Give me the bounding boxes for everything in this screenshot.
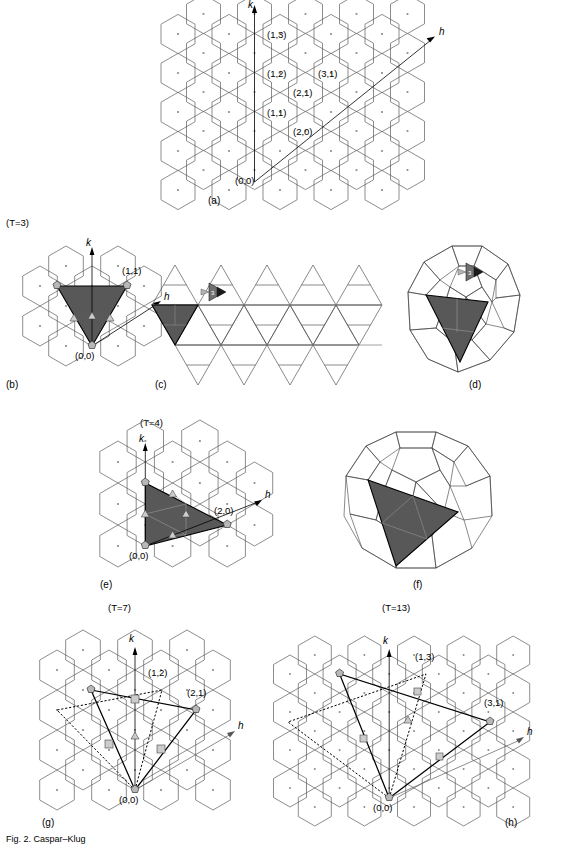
shaded-face-f [368, 480, 458, 566]
k-axis-h [387, 649, 392, 798]
panel-e: k h (0,0) (2,0) [88, 432, 288, 572]
k-axis-label-a: k [248, 0, 253, 10]
origin-label-g: (0,0) [119, 795, 139, 805]
panel-a-lattice [150, 4, 450, 199]
origin-label-h: (0,0) [373, 803, 393, 813]
panel-h: k h (0,0) (1,3) (3,1) [282, 632, 567, 817]
hex-grid-h [274, 636, 530, 826]
k-axis-a [252, 5, 257, 182]
panel-d: 3 [404, 240, 534, 385]
panel-b-lattice [18, 238, 173, 368]
k-axis-g [133, 647, 138, 790]
laevo-label-g: (1,2) [148, 668, 168, 678]
h-axis-label-e: h [265, 490, 271, 500]
panel-letter-a: (a) [208, 196, 220, 206]
k-axis-label-g: k [129, 634, 134, 644]
h-axis-label-h: h [527, 727, 533, 737]
panel-letter-g: (g) [42, 818, 54, 828]
t-label-h-text: (T=13) [382, 602, 410, 613]
h-axis-label-a: h [439, 27, 445, 37]
laevo-label-h: (1,3) [415, 652, 435, 662]
t-label-h: (T=13) [382, 603, 410, 613]
t-label-b-text: (T=3) [6, 217, 29, 228]
lattice-label-00-a: (0,0) [235, 176, 255, 186]
c3-symmetry-glyph-c: 3 [201, 283, 226, 301]
k-axis-label-h: k [383, 636, 388, 646]
lattice-label-20-a: (2,0) [293, 127, 313, 137]
panel-d-capsid: 3 [404, 240, 534, 385]
hex-grid-a [161, 0, 425, 210]
panel-g: k h (0,0) (1,2) (2,1) [35, 638, 265, 813]
origin-label-e: (0,0) [129, 551, 149, 561]
t-label-b: (T=3) [6, 218, 29, 228]
lattice-label-31-a: (3,1) [318, 69, 338, 79]
panel-a: k h (0,0) (1,1) (1,2) (1,3) (2,0) (2,1) … [150, 4, 450, 199]
panel-letter-d: (d) [469, 380, 481, 390]
panel-f [340, 428, 505, 578]
dextro-label-g: (2,1) [187, 688, 207, 698]
panel-letter-c: (c) [155, 380, 167, 390]
h-axis-g [135, 731, 235, 790]
panel-letter-f: (f) [413, 580, 422, 590]
panel-letter-e: (e) [100, 580, 112, 590]
t-label-g: (T=7) [108, 603, 131, 613]
h-axis-label-g: h [238, 721, 244, 731]
t-label-g-text: (T=7) [108, 602, 131, 613]
t-label-e: (T=4) [140, 418, 163, 428]
t-label-e-text: (T=4) [140, 417, 163, 428]
panel-g-lattice [35, 638, 265, 813]
panel-c: 3 [152, 240, 387, 390]
panel-e-lattice [88, 432, 288, 572]
lattice-label-13-a: (1,3) [267, 30, 287, 40]
origin-label-b: (0,0) [75, 351, 95, 361]
lattice-label-21-a: (2,1) [293, 88, 313, 98]
lattice-label-11-a: (1,1) [267, 108, 287, 118]
dextro-label-h: (3,1) [484, 698, 504, 708]
k-axis-label-e: k [139, 434, 144, 444]
panel-letter-b: (b) [6, 380, 18, 390]
laevo-triangle-h [288, 674, 426, 798]
end-label-e: (2,0) [214, 506, 234, 516]
panel-f-capsid [340, 428, 505, 578]
panel-c-net: 3 [152, 240, 387, 390]
k-axis-label-b: k [86, 238, 91, 248]
end-label-b: (1,1) [122, 266, 142, 276]
hex-grid-e [100, 420, 273, 567]
lattice-label-12-a: (1,2) [267, 69, 287, 79]
figure-caption: Fig. 2. Caspar–Klug [6, 834, 86, 845]
panel-letter-h: (h) [505, 818, 517, 828]
panel-b: k h (0,0) (1,1) [18, 238, 173, 368]
